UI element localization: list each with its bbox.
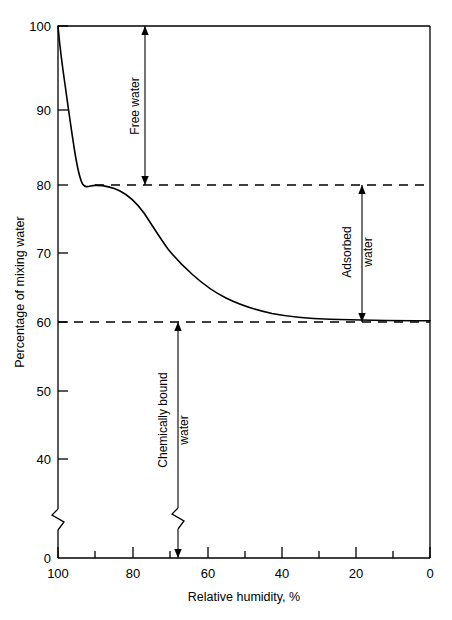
x-ticklabel-80: 80 xyxy=(126,566,140,581)
y-ticklabel-80: 80 xyxy=(37,178,51,193)
y-axis-tick-labels: 100 90 80 70 60 50 40 0 xyxy=(29,19,51,566)
x-axis-title: Relative humidity, % xyxy=(188,590,300,604)
chart-figure: 100 90 80 70 60 50 40 0 Percentage of mi… xyxy=(0,0,452,620)
x-axis-tick-labels: 100 80 60 40 20 0 xyxy=(47,566,433,581)
y-ticklabel-0: 0 xyxy=(44,551,51,566)
chemically-bound-label-line1: Chemically bound xyxy=(156,372,170,467)
annotation-free-water: Free water xyxy=(128,26,149,185)
y-axis-break-icon xyxy=(52,509,64,530)
y-ticklabel-60: 60 xyxy=(37,315,51,330)
chemically-bound-arrowhead-down xyxy=(174,549,181,558)
chart-svg: 100 90 80 70 60 50 40 0 Percentage of mi… xyxy=(0,0,452,620)
free-water-label: Free water xyxy=(128,77,142,134)
y-axis-title: Percentage of mixing water xyxy=(13,216,27,367)
y-ticklabel-40: 40 xyxy=(37,452,51,467)
x-ticklabel-20: 20 xyxy=(349,566,363,581)
plot-frame xyxy=(52,26,430,558)
y-ticklabel-70: 70 xyxy=(37,246,51,261)
data-curve xyxy=(58,26,430,321)
x-ticklabel-60: 60 xyxy=(201,566,215,581)
adsorbed-water-label-line2: water xyxy=(361,237,375,267)
adsorbed-water-arrowhead-up xyxy=(358,185,365,194)
x-ticklabel-0: 0 xyxy=(426,566,433,581)
free-water-arrowhead-down xyxy=(141,176,148,185)
chemically-bound-break-icon xyxy=(172,508,184,529)
chemically-bound-label-line2: water xyxy=(177,415,191,445)
y-ticklabel-100: 100 xyxy=(29,19,51,34)
x-ticklabel-100: 100 xyxy=(47,566,69,581)
x-axis-ticks xyxy=(58,547,430,558)
annotation-chemically-bound-water: Chemically bound water xyxy=(156,322,191,558)
y-ticklabel-90: 90 xyxy=(37,103,51,118)
free-water-arrowhead-up xyxy=(141,26,148,35)
chemically-bound-arrowhead-up xyxy=(174,322,181,331)
x-ticklabel-40: 40 xyxy=(275,566,289,581)
y-ticklabel-50: 50 xyxy=(37,384,51,399)
annotation-adsorbed-water: Adsorbed water xyxy=(340,185,375,322)
adsorbed-water-label-line1: Adsorbed xyxy=(340,226,354,277)
